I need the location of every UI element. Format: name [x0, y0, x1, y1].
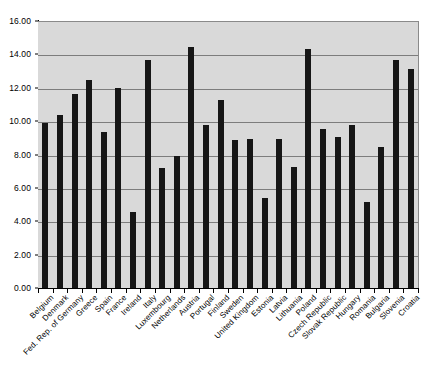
bar: [408, 69, 414, 289]
bar: [159, 168, 165, 289]
y-axis-tick-label: 2.00: [14, 250, 31, 260]
bar: [262, 198, 268, 289]
bar: [291, 167, 297, 289]
bar: [393, 60, 399, 289]
y-axis-tick-label: 4.00: [14, 216, 31, 226]
bar: [247, 139, 253, 289]
bar: [218, 100, 224, 289]
y-axis-tick-label: 12.00: [9, 83, 31, 93]
bar: [174, 156, 180, 289]
bar: [115, 88, 121, 289]
bar: [276, 139, 282, 289]
bar: [305, 49, 311, 289]
bar: [72, 94, 78, 289]
gridline: [38, 89, 418, 90]
bar: [86, 80, 92, 289]
x-axis-labels: BelgiumDenmarkFed. Rep. of GermanyGreece…: [38, 293, 436, 382]
bar: [364, 202, 370, 289]
bar: [57, 115, 63, 289]
gridline: [38, 256, 418, 257]
bar: [320, 129, 326, 289]
y-axis: 0.002.004.006.008.0010.0012.0014.0016.00: [0, 0, 36, 382]
bar: [42, 123, 48, 289]
bar: [349, 125, 355, 289]
bar: [130, 212, 136, 289]
bar: [145, 60, 151, 289]
bar: [335, 137, 341, 289]
bar: [203, 125, 209, 289]
bar: [188, 47, 194, 289]
bar: [101, 132, 107, 289]
y-axis-tick-label: 8.00: [14, 150, 31, 160]
gridline: [38, 189, 418, 190]
gridline: [38, 222, 418, 223]
bar-chart: 0.002.004.006.008.0010.0012.0014.0016.00…: [0, 0, 436, 382]
y-axis-tick-label: 0.00: [14, 283, 31, 293]
plot-area: [38, 21, 419, 289]
plot-inner: [38, 22, 418, 289]
bar: [378, 147, 384, 289]
gridline: [38, 55, 418, 56]
y-axis-tick-label: 16.00: [9, 16, 31, 26]
bar: [232, 140, 238, 289]
gridline: [38, 156, 418, 157]
y-axis-tick-label: 6.00: [14, 183, 31, 193]
y-axis-tick-label: 10.00: [9, 116, 31, 126]
gridline: [38, 122, 418, 123]
y-axis-tick-label: 14.00: [9, 49, 31, 59]
